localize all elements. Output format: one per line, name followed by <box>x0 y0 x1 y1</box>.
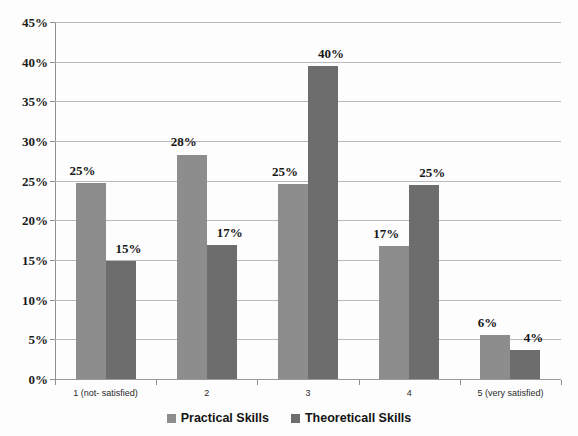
gridline <box>55 22 561 23</box>
x-axis-category-label: 1 (not- satisfied) <box>55 388 156 399</box>
x-tick-mark <box>561 380 562 385</box>
y-tick-mark <box>50 339 55 340</box>
y-axis-tick-label: 15% <box>4 254 48 267</box>
x-tick-mark <box>460 380 461 385</box>
bar-value-label: 17% <box>366 227 406 240</box>
bar-value-label: 6% <box>467 316 507 329</box>
y-axis-tick-label: 35% <box>4 95 48 108</box>
x-tick-mark <box>156 380 157 385</box>
gridline <box>55 379 561 380</box>
plot-area: 25%15%28%17%25%40%17%25%6%4% <box>55 22 561 379</box>
legend-color-swatch <box>291 414 300 423</box>
chart-page: 45%40%35%30%25%20%15%10%5%0% 25%15%28%17… <box>0 0 578 436</box>
bar <box>379 246 409 379</box>
y-tick-mark <box>50 141 55 142</box>
cropped-title-remnant <box>0 0 578 9</box>
x-tick-mark <box>359 380 360 385</box>
y-tick-mark <box>50 101 55 102</box>
y-tick-mark <box>50 260 55 261</box>
y-axis-tick-label: 30% <box>4 135 48 148</box>
chart-legend: Practical SkillsTheoreticall Skills <box>0 411 578 425</box>
bar-value-label: 4% <box>513 331 553 344</box>
y-tick-mark <box>50 181 55 182</box>
bar-value-label: 40% <box>311 47 351 60</box>
x-axis-category-label: 5 (very satisfied) <box>460 388 561 399</box>
bar-value-label: 17% <box>210 226 250 239</box>
x-tick-mark <box>55 380 56 385</box>
gridline <box>55 62 561 63</box>
x-tick-mark <box>257 380 258 385</box>
y-axis-tick-label: 20% <box>4 214 48 227</box>
y-axis-tick-label: 10% <box>4 294 48 307</box>
y-tick-mark <box>50 22 55 23</box>
legend-color-swatch <box>167 414 176 423</box>
bar-value-label: 25% <box>412 166 452 179</box>
bar <box>278 184 308 379</box>
y-tick-mark <box>50 300 55 301</box>
bar-value-label: 25% <box>63 164 103 177</box>
x-axis-category-label: 2 <box>156 388 257 399</box>
y-axis-tick-label: 5% <box>4 333 48 346</box>
bar <box>76 183 106 379</box>
legend-label: Theoreticall Skills <box>305 411 411 425</box>
bar <box>480 335 510 379</box>
y-axis-tick-label: 25% <box>4 175 48 188</box>
bar-value-label: 15% <box>109 242 149 255</box>
bar <box>106 261 136 379</box>
y-axis-labels: 45%40%35%30%25%20%15%10%5%0% <box>0 22 48 380</box>
y-tick-mark <box>50 220 55 221</box>
bar-value-label: 25% <box>265 165 305 178</box>
bar <box>177 155 207 380</box>
bar <box>207 245 237 379</box>
y-axis-tick-label: 45% <box>4 16 48 29</box>
bar <box>409 185 439 379</box>
legend-label: Practical Skills <box>181 411 269 425</box>
bar-value-label: 28% <box>164 135 204 148</box>
bar <box>510 350 540 379</box>
legend-item[interactable]: Practical Skills <box>167 411 269 425</box>
x-axis-category-label: 3 <box>257 388 358 399</box>
y-axis-tick-label: 40% <box>4 56 48 69</box>
y-tick-mark <box>50 62 55 63</box>
legend-item[interactable]: Theoreticall Skills <box>291 411 411 425</box>
x-axis-category-label: 4 <box>359 388 460 399</box>
bar <box>308 66 338 379</box>
y-axis-tick-label: 0% <box>4 373 48 386</box>
